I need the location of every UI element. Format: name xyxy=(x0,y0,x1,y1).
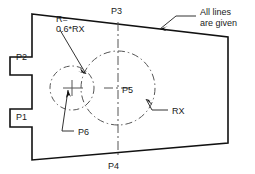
label-p4: P4 xyxy=(108,161,119,171)
label-p2: P2 xyxy=(16,52,27,62)
drawing-canvas: R= 0.6*RX All lines are given RX P1 P2 P… xyxy=(0,0,255,174)
label-rx: RX xyxy=(172,106,185,116)
label-p5: P5 xyxy=(122,85,133,95)
leader-p6 xyxy=(62,90,74,131)
label-p3: P3 xyxy=(111,6,122,16)
all-lines-note-line1: All lines xyxy=(200,7,232,17)
technical-drawing-svg: R= 0.6*RX All lines are given RX P1 P2 P… xyxy=(0,0,255,174)
label-p1: P1 xyxy=(16,112,27,122)
arrowhead-rx xyxy=(146,99,153,105)
arrowhead-p6 xyxy=(66,90,71,98)
part-outline xyxy=(10,14,228,160)
radius-note-line1: R= xyxy=(56,14,68,24)
radius-note-line2: 0.6*RX xyxy=(56,24,85,34)
label-p6: P6 xyxy=(78,127,89,137)
all-lines-note-line2: are given xyxy=(200,18,237,28)
